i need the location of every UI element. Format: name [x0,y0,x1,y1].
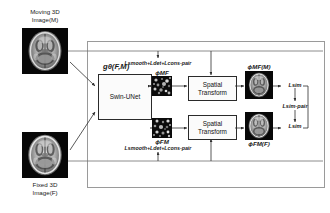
loss-sim-top: Lsim [282,82,308,90]
swin-unet-label: Swin-UNet [110,93,141,101]
fixed-brain-mri [22,132,68,178]
diagram-canvas: Moving 3D Image(M) [0,0,330,213]
backward-regularisation-loss-label: Lsmooth+Ldet+Lcons-pair [110,145,206,153]
spatial-transform-top[interactable]: Spatial Transform [188,76,237,101]
deformation-field-fm [152,118,172,138]
moving-image-label-line1: Moving 3D [12,8,78,16]
moving-brain-mri [22,28,68,74]
warped-fixed-symbol: ϕFM(F) [238,140,280,148]
forward-regularisation-loss-label: Lsmooth+Ldet+Lcons-pair [110,60,206,68]
warped-fixed-brain [245,112,273,140]
spatial-transform-top-line1: Spatial [203,81,223,88]
swin-unet-box[interactable]: Swin-UNet [98,74,152,120]
fixed-image-label-line2: Image(F) [12,189,78,197]
warped-moving-symbol: ϕMF(M) [238,63,280,71]
deformation-field-mf [152,76,172,96]
spatial-transform-bottom[interactable]: Spatial Transform [188,115,237,140]
spatial-transform-bottom-line1: Spatial [203,120,223,127]
spatial-transform-bottom-label: Spatial Transform [198,120,227,135]
fixed-image-label-line1: Fixed 3D [12,181,78,189]
spatial-transform-bottom-line2: Transform [198,128,227,135]
moving-image-label-line2: Image(M) [12,16,78,24]
spatial-transform-top-line2: Transform [198,89,227,96]
loss-sim-pair: Lsim-pair [276,103,314,111]
spatial-transform-top-label: Spatial Transform [198,81,227,96]
warped-moving-brain [245,71,273,99]
loss-sim-bottom: Lsim [282,123,308,131]
